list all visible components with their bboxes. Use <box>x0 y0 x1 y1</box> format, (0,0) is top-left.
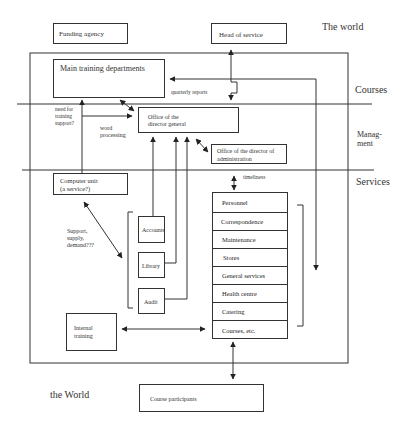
audit-label: Audit <box>144 298 158 306</box>
timeliness-label: timeliness <box>243 173 265 181</box>
library-box: Library <box>138 252 165 278</box>
audit-box: Audit <box>138 288 165 314</box>
accounts-box: Accounts <box>138 216 165 243</box>
office-admin-label-line2: administration <box>217 155 252 163</box>
head-of-service-label: Head of service <box>219 31 263 39</box>
course-participants-label: Course participants <box>150 395 197 403</box>
head-of-service-arrow <box>231 50 237 100</box>
course-participants-box: Course participants <box>139 384 264 412</box>
internal-training-box: Internal training <box>66 313 117 351</box>
accounts-label: Accounts <box>142 226 165 234</box>
services-list: Personnel Correspondence Maintenance Sto… <box>212 192 288 339</box>
zone-the-world-bottom: the World <box>50 389 89 400</box>
support-line2: supply, <box>67 235 94 242</box>
service-item: Catering <box>213 303 287 321</box>
computer-unit-label-line2: (a service?) <box>60 185 90 193</box>
service-item: Maintenance <box>213 231 287 249</box>
service-item: Health centre <box>213 285 287 303</box>
computer-unit-label-line1: Computer unit <box>60 177 98 185</box>
library-label: Library <box>142 262 160 270</box>
head-of-service-box: Head of service <box>211 23 287 44</box>
support-line1: Support, <box>67 228 94 235</box>
office-dg-label-line2: director general <box>148 120 186 128</box>
internal-training-label-line1: Internal <box>74 324 93 332</box>
zone-courses: Courses <box>355 84 387 95</box>
admin-units-bracket <box>128 212 133 308</box>
dg-admin-arrow <box>196 139 208 152</box>
need-for-line1: need for <box>55 106 74 113</box>
word-line1: word <box>100 125 126 132</box>
internal-training-label-line2: training <box>74 332 93 340</box>
funding-agency-box: Funding agency <box>53 23 128 44</box>
zone-services: Services <box>356 176 390 187</box>
zone-the-world-top: The world <box>322 21 363 32</box>
library-dg-arrow <box>165 137 176 263</box>
service-item: Personnel <box>213 193 287 213</box>
need-for-line3: support? <box>55 120 74 127</box>
office-director-general-box: Office of the director general <box>138 107 239 133</box>
training-dg-arrow <box>120 100 134 111</box>
service-item: Correspondence <box>213 213 287 231</box>
quarterly-reports-label: quarterly reports <box>171 88 208 96</box>
word-processing-label: word processing <box>100 125 126 139</box>
main-training-departments-label: Main training departments <box>60 65 145 73</box>
office-director-administration-box: Office of the director of administration <box>211 144 287 164</box>
office-admin-label-line1: Office of the director of <box>217 147 274 155</box>
service-item: Stores <box>213 249 287 267</box>
need-for-line2: training <box>55 113 74 120</box>
service-item: Courses, etc. <box>213 321 287 340</box>
funding-agency-label: Funding agency <box>59 30 104 38</box>
zone-management: Manag- ment <box>357 130 382 148</box>
word-line2: processing <box>100 132 126 139</box>
need-for-training-support-label: need for training support? <box>55 106 74 127</box>
zone-management-line2: ment <box>357 139 382 148</box>
main-training-departments-box: Main training departments <box>53 59 165 98</box>
service-item: General services <box>213 267 287 285</box>
support-line3: demand??? <box>67 242 94 249</box>
support-supply-demand-label: Support, supply, demand??? <box>67 228 94 249</box>
services-bracket <box>297 205 303 326</box>
zone-management-line1: Manag- <box>357 130 382 139</box>
computer-unit-box: Computer unit (a service?) <box>53 173 128 195</box>
